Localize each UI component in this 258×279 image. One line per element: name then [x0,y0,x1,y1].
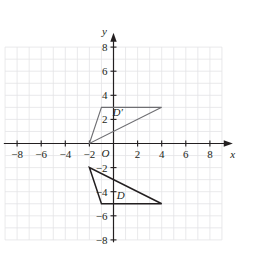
x-axis-tick-label: 4 [159,148,165,160]
y-axis-tick-label: 8 [102,41,108,53]
y-axis-tick-label: −8 [96,234,108,246]
x-axis-tick-label: −6 [35,148,47,160]
shape-label-d-prime: D′ [112,106,124,118]
y-axis-tick-label: 4 [102,89,108,101]
coordinate-plane-svg: −8−6−4−224688642−2−4−6−8 O x y D′D [0,0,258,279]
x-axis-tick-label: −4 [59,148,71,160]
x-axis-tick-label: −8 [11,148,23,160]
y-axis-tick-label: −6 [96,210,108,222]
shape-label-d: D [116,189,125,201]
x-axis-tick-label: 2 [135,148,141,160]
origin-label: O [102,147,110,159]
y-axis-tick-label: 6 [102,65,108,77]
x-axis-tick-label: −2 [84,148,96,160]
x-axis-label: x [229,148,235,160]
x-axis-tick-label: 6 [183,148,189,160]
y-axis-label: y [101,25,107,37]
y-axis-tick-label: 2 [102,113,108,125]
coordinate-plane-figure: −8−6−4−224688642−2−4−6−8 O x y D′D [0,0,258,279]
x-axis-arrowhead [224,140,233,146]
axes [4,33,233,243]
x-axis-tick-label: 8 [207,148,213,160]
y-axis-arrowhead [110,33,116,42]
